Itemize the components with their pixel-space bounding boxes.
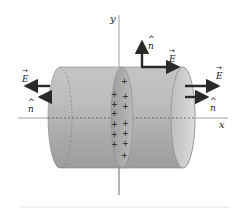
svg-text:→: →	[169, 47, 175, 55]
y-axis-label: y	[109, 13, 116, 24]
e-right-label: E	[215, 71, 223, 81]
e-left-label: E	[21, 74, 29, 84]
svg-text:+: +	[122, 139, 129, 148]
charged-sheet: + ++ ++ + ++ ++ ++ +	[111, 67, 133, 168]
svg-text:+: +	[121, 77, 128, 86]
e-top-label: E	[168, 54, 176, 64]
svg-text:+: +	[122, 102, 129, 111]
svg-text:^: ^	[148, 35, 155, 44]
svg-text:+: +	[122, 129, 129, 138]
left-end-vectors: E → n ^	[21, 67, 50, 114]
svg-text:+: +	[121, 151, 128, 160]
svg-text:→: →	[22, 67, 28, 75]
diagram-canvas: y x + ++ ++ + ++ ++ ++ + n ^ E →	[0, 0, 238, 209]
svg-text:+: +	[111, 100, 118, 109]
svg-text:^: ^	[210, 97, 217, 106]
svg-text:+: +	[111, 90, 118, 99]
gauss-cylinder-diagram: y x + ++ ++ + ++ ++ ++ + n ^ E →	[0, 0, 238, 209]
svg-text:+: +	[122, 92, 129, 101]
svg-text:+: +	[122, 119, 129, 128]
svg-text:→: →	[216, 64, 222, 72]
svg-text:+: +	[111, 120, 118, 129]
right-end-cap	[171, 67, 195, 168]
svg-text:+: +	[111, 130, 118, 139]
svg-text:^: ^	[28, 98, 35, 107]
x-axis-label: x	[219, 119, 225, 130]
svg-text:+: +	[111, 140, 118, 149]
svg-text:+: +	[111, 109, 118, 118]
top-surface-vectors: n ^ E →	[141, 35, 178, 67]
